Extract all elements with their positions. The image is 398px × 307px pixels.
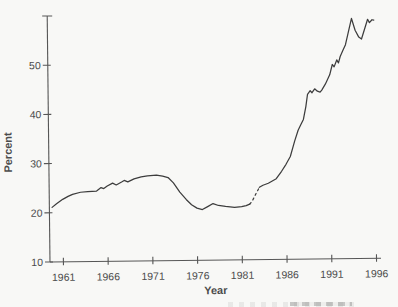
scanned-line-chart-figure: 1020304050196119661971197619811986199119… [0, 0, 398, 307]
cut-off-caption-remnant [228, 302, 356, 307]
x-axis-title: Year [204, 284, 228, 296]
x-tick-label: 1971 [141, 270, 165, 282]
y-axis-title: Percent [2, 132, 14, 173]
y-axis-line [47, 16, 50, 262]
y-tick-label: 40 [30, 108, 42, 120]
x-tick-label: 1991 [320, 268, 344, 280]
chart-canvas-wrapper: 1020304050196119661971197619811986199119… [0, 0, 398, 307]
y-tick-label: 50 [29, 59, 41, 71]
series-line-percent-solid-1983-1996 [257, 18, 375, 187]
series-line-percent-dashed-break-1982-1983 [250, 187, 260, 204]
x-tick-label: 1961 [52, 271, 76, 283]
y-tick-label: 20 [31, 207, 43, 219]
y-tick-label: 10 [31, 256, 43, 268]
y-tick-label: 30 [30, 157, 42, 169]
x-tick-label: 1996 [365, 267, 389, 279]
x-tick-label: 1986 [275, 268, 299, 280]
x-tick-label: 1976 [186, 269, 210, 281]
x-tick-label: 1966 [97, 270, 121, 282]
x-tick-label: 1981 [231, 269, 255, 281]
series-line-percent-solid-1960-1982 [52, 174, 250, 211]
line-chart: 1020304050196119661971197619811986199119… [0, 0, 398, 307]
